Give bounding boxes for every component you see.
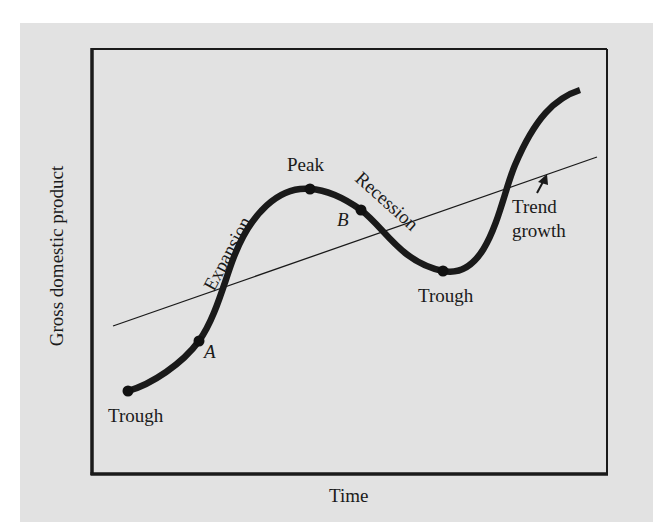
y-axis-label: Gross domestic product bbox=[46, 165, 67, 346]
peak-dot bbox=[305, 184, 316, 195]
point-b-label: B bbox=[337, 209, 349, 230]
trend-label: Trend bbox=[512, 196, 557, 217]
point-b-dot bbox=[356, 205, 367, 216]
peak-label: Peak bbox=[287, 154, 324, 175]
trough-left-label: Trough bbox=[108, 405, 164, 426]
growth-label: growth bbox=[512, 220, 566, 241]
plot-frame bbox=[91, 48, 609, 475]
recession-label: Recession bbox=[351, 167, 423, 234]
x-axis-label: Time bbox=[329, 485, 368, 506]
business-cycle-diagram: Trough A Expansion Peak Recession B Trou… bbox=[0, 0, 653, 522]
trough-left-dot bbox=[123, 386, 134, 397]
point-a-label: A bbox=[202, 341, 216, 362]
point-a-dot bbox=[194, 336, 205, 347]
trough-right-dot bbox=[438, 266, 449, 277]
trough-right-label: Trough bbox=[418, 285, 474, 306]
